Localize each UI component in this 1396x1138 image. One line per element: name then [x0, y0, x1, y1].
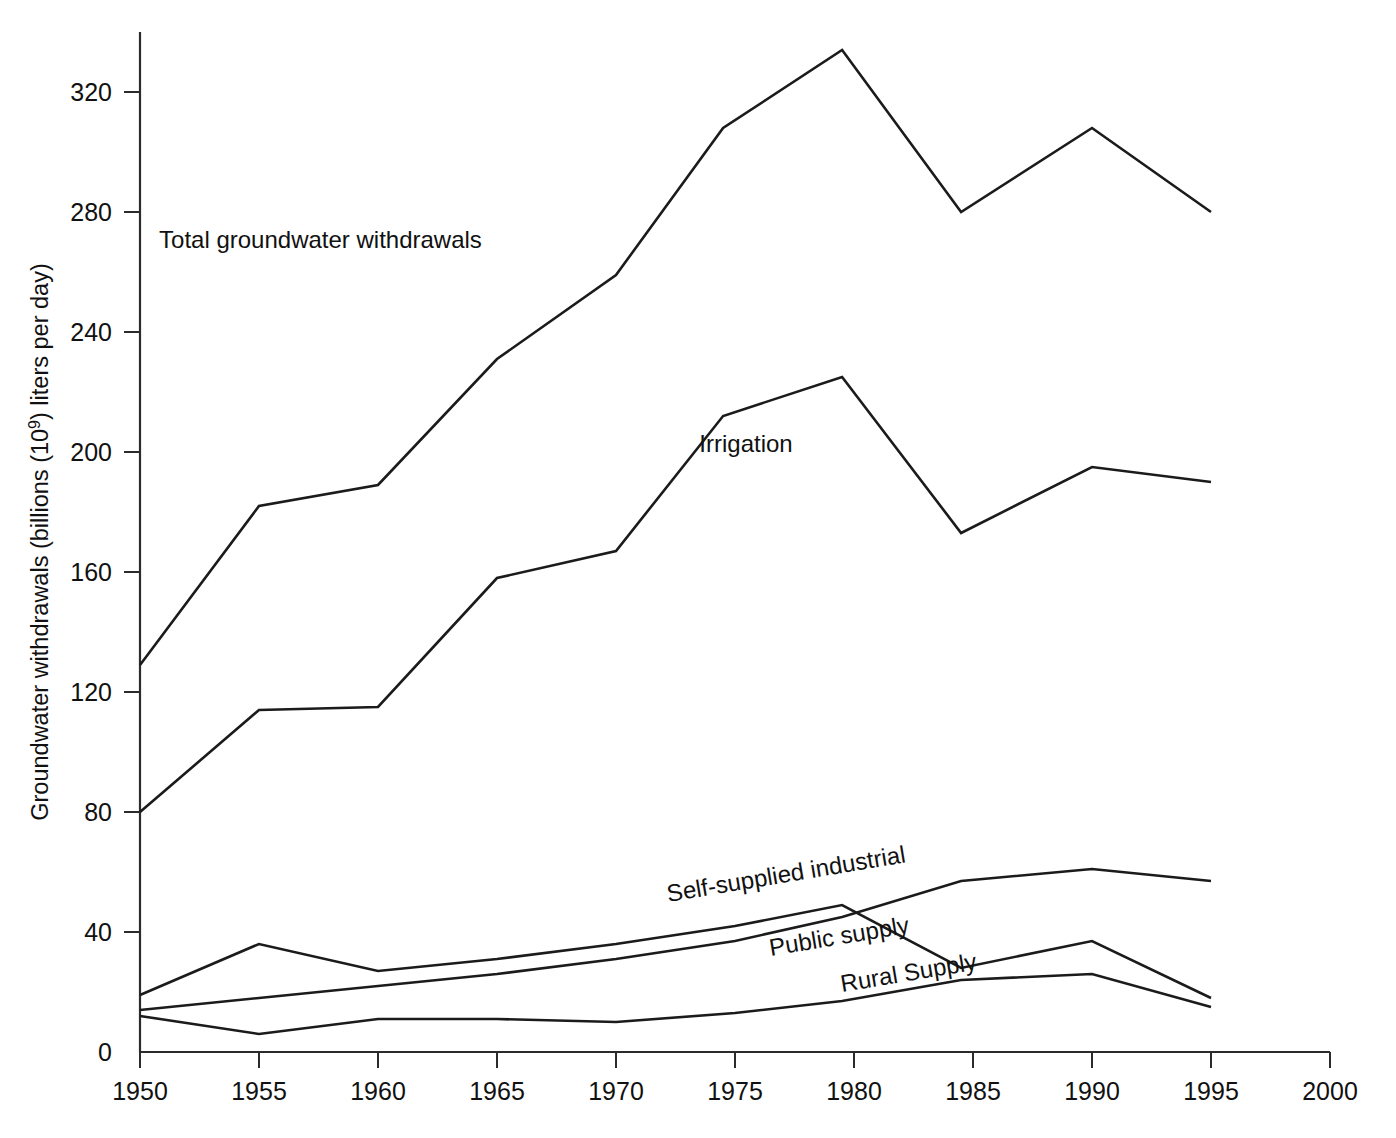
- y-axis-title-exponent: 9: [26, 420, 43, 429]
- y-axis-tick-label: 160: [70, 558, 112, 586]
- y-axis-tick-label: 80: [84, 798, 112, 826]
- series-label-self-supplied-industrial: Self-supplied industrial: [665, 840, 908, 906]
- x-axis: 1950195519601965197019751980198519901995…: [112, 1052, 1358, 1105]
- x-axis-tick-label: 1975: [707, 1077, 763, 1105]
- series-line-irrigation: [140, 377, 1211, 812]
- y-axis-tick-label: 120: [70, 678, 112, 706]
- series-line-total-groundwater-withdrawals: [140, 50, 1211, 665]
- y-axis-tick-label: 240: [70, 318, 112, 346]
- y-axis: 04080120160200240280320: [70, 32, 140, 1066]
- x-axis-tick-label: 2000: [1302, 1077, 1358, 1105]
- line-chart-canvas: 04080120160200240280320 1950195519601965…: [0, 0, 1396, 1138]
- y-axis-title-text: Groundwater withdrawals (billions (109) …: [26, 263, 53, 820]
- y-axis-tick-label: 0: [98, 1038, 112, 1066]
- y-axis-title-prefix: Groundwater withdrawals (billions (10: [27, 429, 53, 821]
- x-axis-tick-label: 1960: [350, 1077, 406, 1105]
- series-label-irrigation: Irrigation: [699, 430, 792, 457]
- series-label-total-groundwater-withdrawals: Total groundwater withdrawals: [159, 226, 482, 253]
- x-axis-tick-label: 1985: [945, 1077, 1001, 1105]
- x-axis-tick-label: 1950: [112, 1077, 168, 1105]
- y-axis-title: Groundwater withdrawals (billions (109) …: [26, 263, 53, 820]
- series-labels: Total groundwater withdrawalsIrrigationS…: [159, 226, 978, 997]
- y-axis-title-suffix: ) liters per day): [27, 263, 53, 420]
- x-axis-tick-label: 1970: [588, 1077, 644, 1105]
- x-axis-tick-label: 1980: [826, 1077, 882, 1105]
- series-line-rural-supply: [140, 974, 1211, 1034]
- x-axis-tick-label: 1995: [1183, 1077, 1239, 1105]
- series-line-self-supplied-industrial: [140, 905, 1211, 998]
- y-axis-tick-label: 280: [70, 198, 112, 226]
- x-axis-tick-label: 1955: [231, 1077, 287, 1105]
- x-axis-tick-label: 1965: [469, 1077, 525, 1105]
- chart-figure: 04080120160200240280320 1950195519601965…: [0, 0, 1396, 1138]
- y-axis-tick-label: 200: [70, 438, 112, 466]
- x-axis-tick-label: 1990: [1064, 1077, 1120, 1105]
- y-axis-tick-label: 40: [84, 918, 112, 946]
- y-axis-tick-label: 320: [70, 78, 112, 106]
